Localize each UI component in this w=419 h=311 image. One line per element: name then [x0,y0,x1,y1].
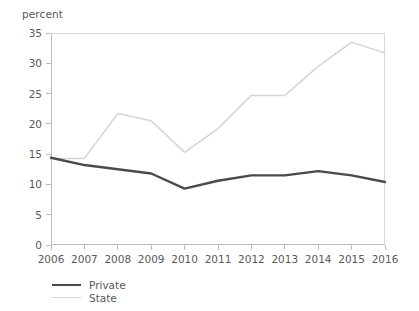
x-tick-mark [218,245,219,250]
chart-legend: PrivateState [52,278,126,304]
legend-item-state[interactable]: State [52,291,126,304]
x-tick-label: 2006 [38,253,65,265]
plot-area [51,33,385,245]
y-tick-label: 30 [29,57,42,69]
x-tick-label: 2011 [205,253,232,265]
x-tick-label: 2010 [171,253,198,265]
x-tick-mark [84,245,85,250]
y-tick-label: 15 [29,148,42,160]
y-tick-label: 10 [29,178,42,190]
y-axis-unit-label: percent [22,8,63,20]
legend-label: Private [89,279,126,291]
y-tick-label: 5 [35,209,42,221]
x-tick-label: 2016 [372,253,399,265]
x-tick-mark [184,245,185,250]
x-tick-mark [151,245,152,250]
x-tick-label: 2015 [338,253,365,265]
legend-label: State [89,292,117,304]
x-tick-label: 2013 [271,253,298,265]
series-layer [51,33,385,245]
y-tick-label: 35 [29,27,42,39]
x-tick-mark [251,245,252,250]
x-tick-mark [385,245,386,250]
x-tick-label: 2007 [71,253,98,265]
x-tick-mark [284,245,285,250]
y-tick-label: 0 [35,239,42,251]
legend-item-private[interactable]: Private [52,278,126,291]
x-tick-label: 2012 [238,253,265,265]
y-tick-label: 20 [29,118,42,130]
x-tick-label: 2014 [305,253,332,265]
x-tick-mark [351,245,352,250]
series-line-state [51,42,385,158]
x-tick-label: 2009 [138,253,165,265]
x-tick-label: 2008 [104,253,131,265]
x-tick-mark [51,245,52,250]
series-line-private [51,158,385,189]
line-chart: percent 05101520253035 20062007200820092… [0,0,419,311]
legend-line-swatch-private [52,284,81,286]
y-tick-label: 25 [29,88,42,100]
legend-line-swatch-state [52,297,81,298]
x-tick-mark [117,245,118,250]
x-tick-mark [318,245,319,250]
